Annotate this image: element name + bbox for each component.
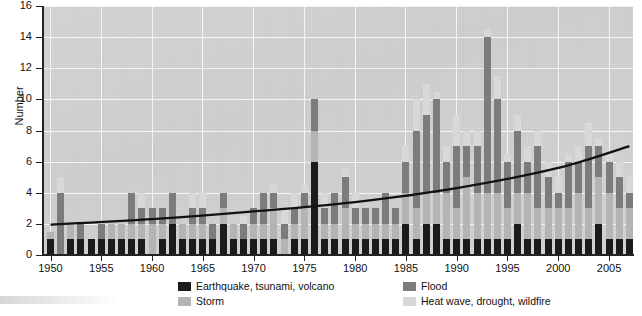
bar-segment [372,208,379,224]
bar-stack [595,138,602,255]
bar-segment [281,239,288,255]
bar-stack [494,76,501,255]
bar-stack [484,29,491,255]
bar-stack [514,115,521,255]
bar-segment [595,177,602,224]
bar-stack [585,123,592,255]
y-tick-label: 10 [0,92,32,104]
bar-segment [250,224,257,240]
bar-stack [555,177,562,255]
y-tick-label: 12 [0,61,32,73]
x-tick [254,256,255,261]
bar-segment [291,208,298,224]
legend-label-storm: Storm [196,295,224,307]
bar-segment [331,193,338,224]
bar-segment [199,193,206,209]
bar-segment [301,208,308,239]
legend-swatch-storm [178,297,191,306]
bar-segment [118,224,125,240]
bar-segment [362,208,369,224]
bar-segment [585,239,592,255]
x-tick-label: 1995 [487,262,527,274]
bar-segment [534,131,541,147]
bar-segment [392,239,399,255]
x-tick [152,256,153,261]
bar-segment [392,224,399,240]
legend-label-heatwave: Heat wave, drought, wildfire [421,295,551,307]
bar-segment [331,239,338,255]
bar-segment [301,193,308,209]
plot-area [44,6,633,255]
bar-segment [138,193,145,209]
bar-segment [291,193,298,209]
bar-segment [453,208,460,239]
bar-stack [626,177,633,255]
bar-segment [524,162,531,193]
bar-segment [77,239,84,255]
bar-segment [413,131,420,209]
y-tick [36,224,42,225]
bar-segment [474,146,481,193]
bar-stack [443,146,450,255]
bar-stack [453,115,460,255]
bar-segment [463,146,470,177]
bar-stack [524,146,531,255]
bar-segment [321,239,328,255]
bar-segment [240,224,247,240]
legend-swatch-flood [403,282,416,291]
bar-segment [534,239,541,255]
x-tick-label: 1960 [132,262,172,274]
bar-segment [514,193,521,224]
bar-segment [443,193,450,240]
y-tick-label: 2 [0,217,32,229]
bar-segment [301,239,308,255]
bar-segment [402,224,409,255]
bar-segment [433,99,440,192]
bar-segment [402,193,409,224]
bar-segment [179,224,186,240]
bar-segment [189,208,196,224]
bar-segment [402,146,409,162]
bar-segment [189,239,196,255]
bar-segment [270,193,277,209]
bar-segment [270,185,277,193]
bar-segment [342,169,349,177]
x-tick [51,256,52,261]
bar-segment [494,76,501,99]
x-tick [609,256,610,261]
x-tick [457,256,458,261]
bar-segment [555,239,562,255]
bar-segment [230,224,237,240]
bar-segment [565,239,572,255]
bar-segment [199,208,206,224]
bar-stack [301,185,308,255]
bar-segment [606,154,613,162]
y-tick [36,37,42,38]
bar-segment [626,239,633,255]
bar-segment [240,239,247,255]
bar-segment [534,208,541,239]
bar-segment [453,146,460,208]
legend-item-earthquake: Earthquake, tsunami, volcano [178,280,334,292]
gridline-vertical [50,6,51,255]
bar-segment [321,193,328,209]
bar-segment [47,239,54,255]
bar-segment [209,239,216,255]
y-axis-title: Number [13,61,25,151]
bar-segment [108,224,115,240]
bar-segment [291,239,298,255]
bar-segment [281,224,288,240]
bar-stack [199,193,206,255]
bar-segment [149,208,156,224]
y-tick-label: 16 [0,0,32,11]
bar-stack [189,193,196,255]
y-tick [36,99,42,100]
x-axis-line [42,254,634,256]
bar-stack [392,208,399,255]
bar-stack [311,99,318,255]
bar-segment [311,162,318,255]
legend-swatch-heatwave [403,297,416,306]
bar-segment [463,177,470,239]
bar-stack [138,193,145,255]
bar-stack [250,208,257,255]
